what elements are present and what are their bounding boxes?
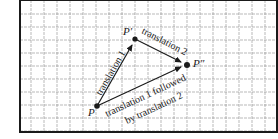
point-p [94,103,100,109]
label-p-double-prime: P″ [192,57,205,69]
label-translation-1: translation 1 [93,48,127,97]
label-p: P [87,106,95,118]
label-p-prime: P′ [122,25,133,37]
label-translation-2: translation 2 [140,25,189,57]
point-p-prime [132,36,137,41]
point-p-double-prime [184,62,190,68]
translation-diagram: P P′ P″ translation 1 translation 2 tran… [0,0,278,139]
